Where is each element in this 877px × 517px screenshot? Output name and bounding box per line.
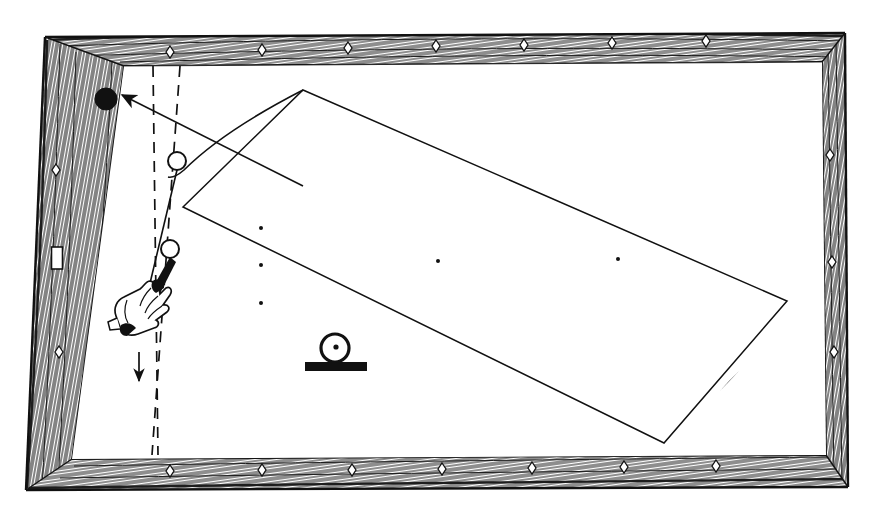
rail-plate — [52, 247, 63, 269]
spot-mark — [436, 259, 440, 263]
spot-mark — [259, 263, 263, 267]
spot-mark — [616, 257, 620, 261]
cue-ball-lower — [161, 240, 179, 258]
figure-canvas: Billiard table diagram Line-art perspect… — [0, 0, 877, 517]
spot-mark — [259, 301, 263, 305]
cue-ball-upper — [168, 152, 186, 170]
roller-center-dot — [333, 344, 338, 349]
table-cloth-bed — [72, 62, 826, 459]
billiard-table-illustration — [0, 0, 877, 517]
object-ball — [95, 88, 117, 110]
roller-bar — [305, 362, 367, 371]
spot-mark — [259, 226, 263, 230]
